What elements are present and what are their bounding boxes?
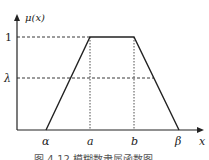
tick-b: b — [131, 135, 138, 148]
tick-1: 1 — [5, 31, 12, 44]
x-axis-arrow-icon — [197, 127, 204, 133]
tick-beta: β — [174, 135, 181, 148]
tick-a: a — [87, 135, 94, 148]
tick-lambda: λ — [3, 72, 11, 85]
trapezoid-curve — [46, 37, 179, 130]
x-axis-label: x — [199, 135, 206, 148]
figure-caption: 图 4-12 模糊数隶属函数图 — [34, 153, 153, 160]
tick-alpha: α — [42, 135, 50, 148]
y-axis-arrow-icon — [14, 14, 20, 21]
membership-diagram: μ(x) 1 λ α a b β x 图 4-12 模糊数隶属函数图 — [0, 0, 209, 160]
y-axis-label: μ(x) — [25, 12, 45, 23]
